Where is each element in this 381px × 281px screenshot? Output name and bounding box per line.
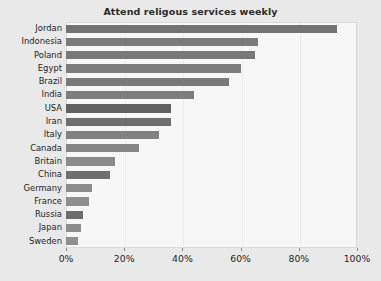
category-label: Sweden [0,235,62,248]
bar [66,25,337,33]
x-tick [182,248,183,251]
bar-row [66,35,357,48]
bar [66,78,229,86]
bar-row [66,49,357,62]
category-label: Egypt [0,62,62,75]
category-label: Japan [0,221,62,234]
bar-row [66,235,357,248]
bar-row [66,155,357,168]
bar-row [66,221,357,234]
bar-row [66,22,357,35]
bar [66,211,83,219]
bar-row [66,128,357,141]
category-label: Brazil [0,75,62,88]
x-axis: 0%20%40%60%80%100% [66,248,357,281]
bar-row [66,208,357,221]
category-label: Jordan [0,22,62,35]
x-tick [357,248,358,251]
category-label: Iran [0,115,62,128]
bar [66,171,110,179]
x-tick-label: 20% [114,253,135,264]
category-label: Italy [0,128,62,141]
bars-layer [66,22,357,248]
bar-row [66,142,357,155]
bar [66,197,89,205]
bar-row [66,102,357,115]
bar-row [66,168,357,181]
category-label: France [0,195,62,208]
category-label: USA [0,102,62,115]
x-tick-label: 40% [172,253,193,264]
bar [66,64,241,72]
bar-chart: Attend religous services weekly JordanIn… [0,0,381,281]
category-label: China [0,168,62,181]
x-tick-label: 0% [59,253,74,264]
x-tick [66,248,67,251]
chart-title: Attend religous services weekly [0,6,381,17]
category-label: Russia [0,208,62,221]
bar-row [66,62,357,75]
x-tick [124,248,125,251]
bar [66,224,81,232]
category-labels: JordanIndonesiaPolandEgyptBrazilIndiaUSA… [0,22,62,248]
bar [66,184,92,192]
bar [66,51,255,59]
bar [66,118,171,126]
bar [66,157,115,165]
bar [66,237,78,245]
bar-row [66,195,357,208]
bar-row [66,75,357,88]
x-tick [241,248,242,251]
x-tick-label: 60% [230,253,251,264]
x-tick [299,248,300,251]
bar-row [66,88,357,101]
bar [66,91,194,99]
gridline [358,23,359,247]
x-tick-label: 80% [288,253,309,264]
category-label: Britain [0,155,62,168]
bar-row [66,115,357,128]
bar [66,131,159,139]
category-label: Indonesia [0,35,62,48]
category-label: Germany [0,182,62,195]
category-label: Poland [0,49,62,62]
bar-row [66,182,357,195]
category-label: Canada [0,142,62,155]
bar [66,104,171,112]
bar [66,144,139,152]
bar [66,38,258,46]
category-label: India [0,88,62,101]
x-tick-label: 100% [344,253,371,264]
